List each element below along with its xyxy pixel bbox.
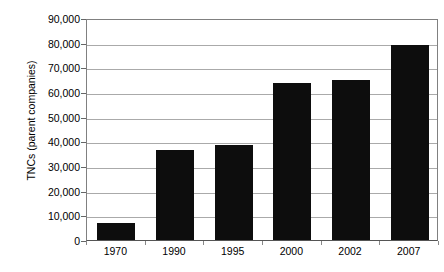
y-tick-label: 20,000 xyxy=(10,186,80,197)
plot-area xyxy=(86,19,438,241)
y-tick-label: 70,000 xyxy=(10,63,80,74)
x-tick-label: 1990 xyxy=(145,246,204,257)
y-tick-mark xyxy=(81,118,86,119)
y-tick-label: 80,000 xyxy=(10,38,80,49)
gridline xyxy=(87,45,437,46)
gridline xyxy=(87,94,437,95)
y-tick-label: 50,000 xyxy=(10,112,80,123)
y-tick-mark xyxy=(81,167,86,168)
gridline xyxy=(87,168,437,169)
x-tick-label: 2007 xyxy=(379,246,438,257)
bar xyxy=(215,145,253,240)
bar xyxy=(332,80,370,240)
y-tick-mark xyxy=(81,68,86,69)
x-tick-mark xyxy=(379,241,380,245)
bar xyxy=(97,223,135,240)
x-tick-mark xyxy=(86,241,87,245)
x-tick-mark xyxy=(145,241,146,245)
x-tick-mark xyxy=(321,241,322,245)
y-tick-mark xyxy=(81,192,86,193)
gridline xyxy=(87,69,437,70)
gridline xyxy=(87,193,437,194)
bar xyxy=(156,150,194,240)
bar xyxy=(391,45,429,240)
y-tick-mark xyxy=(81,44,86,45)
x-tick-label: 1995 xyxy=(203,246,262,257)
x-tick-label: 1970 xyxy=(86,246,145,257)
y-tick-mark xyxy=(81,19,86,20)
y-tick-label: 10,000 xyxy=(10,211,80,222)
bar-chart: TNCs (parent companies) 010,00020,00030,… xyxy=(0,0,444,272)
x-tick-mark xyxy=(203,241,204,245)
y-tick-label: 40,000 xyxy=(10,137,80,148)
y-tick-mark xyxy=(81,93,86,94)
gridline xyxy=(87,217,437,218)
gridline xyxy=(87,143,437,144)
y-tick-label: 90,000 xyxy=(10,14,80,25)
x-tick-label: 2000 xyxy=(262,246,321,257)
x-tick-label: 2002 xyxy=(321,246,380,257)
x-tick-mark xyxy=(262,241,263,245)
bar xyxy=(273,83,311,240)
gridline xyxy=(87,119,437,120)
x-tick-mark xyxy=(438,241,439,245)
y-tick-mark xyxy=(81,216,86,217)
y-tick-mark xyxy=(81,142,86,143)
y-tick-label: 0 xyxy=(10,236,80,247)
y-tick-label: 30,000 xyxy=(10,162,80,173)
y-tick-label: 60,000 xyxy=(10,88,80,99)
